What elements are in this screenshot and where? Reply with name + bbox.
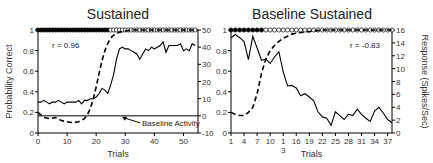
y2-tick-label: 40 — [202, 43, 211, 52]
trial-marker-correct — [229, 28, 233, 32]
x-tick-label: 28 — [344, 137, 353, 146]
x-tick-label: 37 — [383, 137, 392, 146]
y2-tick-label: 14 — [396, 39, 405, 48]
x-tick-label: 7 — [255, 137, 260, 146]
trial-marker-learned — [290, 28, 294, 32]
y2-axis-label: Response (Spikes/Sec) — [420, 34, 430, 128]
trial-marker-learned — [264, 28, 268, 32]
correlation-annotation: r = 0.96 — [52, 41, 80, 50]
x-tick-label: 40 — [150, 137, 159, 146]
y-tick-label: 0.6 — [216, 67, 228, 76]
x-tick-label: 20 — [92, 137, 101, 146]
y-tick-label: 0.8 — [23, 47, 35, 56]
x-tick-label: 1 — [229, 137, 234, 146]
y2-tick-label: 12 — [396, 52, 405, 61]
y2-tick-label: 10 — [396, 65, 405, 74]
trial-marker-learned — [285, 28, 289, 32]
y2-tick-label: 50 — [202, 26, 211, 35]
trial-marker-learned — [294, 28, 298, 32]
trial-marker-correct — [246, 28, 250, 32]
x-tick-label: 31 — [357, 137, 366, 146]
x-tick-label: 25 — [331, 137, 340, 146]
trial-marker-learned — [281, 28, 285, 32]
x-tick-label: 4 — [242, 137, 247, 146]
y2-tick-label: 0 — [396, 129, 401, 138]
x-tick-label: 16 — [292, 137, 301, 146]
y2-tick-label: 30 — [202, 60, 211, 69]
trial-marker-learned — [272, 28, 276, 32]
x-axis-label: Trials — [301, 149, 323, 159]
baseline-arrow — [124, 118, 140, 123]
trial-marker-correct — [255, 28, 259, 32]
trial-marker-correct — [259, 28, 263, 32]
y-tick-label: 1 — [30, 26, 35, 35]
y-tick-label: 0.2 — [23, 108, 35, 117]
y2-tick-label: 8 — [396, 78, 401, 87]
response-line — [38, 42, 195, 104]
chart-title: Sustained — [87, 6, 149, 22]
y-tick-label: 0.8 — [216, 47, 228, 56]
y-tick-label: 0.6 — [23, 67, 35, 76]
y2-tick-label: 10 — [202, 95, 211, 104]
y-axis-label: Probability Correct — [4, 44, 14, 119]
x-axis-label: Trials — [107, 149, 129, 159]
chart-title: Baseline Sustained — [252, 6, 372, 22]
panel-baseline-sustained: Baseline Sustained00.20.40.60.8102468101… — [216, 6, 430, 159]
y-tick-label: 0 — [223, 129, 228, 138]
y2-tick-label: 16 — [396, 26, 405, 35]
y2-tick-label: 20 — [202, 78, 211, 87]
y2-tick-label: -10 — [202, 129, 214, 138]
y-tick-label: 0 — [30, 129, 35, 138]
y-tick-label: 0.2 — [216, 108, 228, 117]
x-tick-label: 10 — [266, 137, 275, 146]
x-tick-sublabel: 3 — [281, 146, 286, 155]
y-tick-label: 0.4 — [23, 88, 35, 97]
correlation-annotation: r = -0.83 — [350, 41, 381, 50]
x-tick-label: 50 — [179, 137, 188, 146]
trial-marker-correct — [233, 28, 237, 32]
baseline-annotation: Baseline Activity — [142, 119, 200, 128]
figure: Sustained00.20.40.60.81-1001020304050010… — [0, 0, 433, 163]
x-tick-label: 19 — [305, 137, 314, 146]
panel-sustained: Sustained00.20.40.60.81-1001020304050010… — [4, 6, 214, 159]
y2-tick-label: 6 — [396, 90, 401, 99]
x-tick-label: 0 — [36, 137, 41, 146]
x-tick-label: 10 — [63, 137, 72, 146]
y2-tick-label: 4 — [396, 103, 401, 112]
x-tick-label: 22 — [318, 137, 327, 146]
x-tick-label: 1 — [281, 137, 286, 146]
trial-marker-correct — [251, 28, 255, 32]
y2-tick-label: 0 — [202, 112, 207, 121]
y2-tick-label: 2 — [396, 116, 401, 125]
trial-marker-correct — [238, 28, 242, 32]
x-tick-label: 30 — [121, 137, 130, 146]
trial-marker-correct — [242, 28, 246, 32]
trial-marker-learned — [277, 28, 281, 32]
x-tick-label: 34 — [370, 137, 379, 146]
trial-marker-learned — [299, 28, 303, 32]
trial-marker-learned — [268, 28, 272, 32]
y-tick-label: 0.4 — [216, 88, 228, 97]
y-tick-label: 1 — [223, 26, 228, 35]
